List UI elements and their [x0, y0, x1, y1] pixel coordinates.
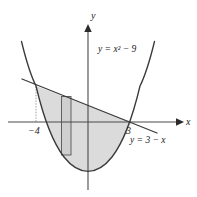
- tick-label-three: 3: [125, 125, 131, 136]
- graph-canvas: y x y = x² − 9 y = 3 − x −4 3: [0, 0, 197, 197]
- x-axis-label: x: [185, 116, 191, 127]
- y-axis-label: y: [90, 10, 96, 21]
- parabola-equation-label: y = x² − 9: [97, 44, 137, 54]
- representative-rectangle: [62, 97, 72, 156]
- line-equation-label: y = 3 − x: [129, 135, 166, 145]
- shaded-region: [36, 86, 132, 171]
- y-axis-arrowhead: [84, 24, 91, 32]
- math-figure-region-between-curves: y x y = x² − 9 y = 3 − x −4 3: [0, 0, 197, 197]
- tick-label-minus-four: −4: [28, 125, 40, 136]
- x-axis-arrowhead: [176, 118, 184, 125]
